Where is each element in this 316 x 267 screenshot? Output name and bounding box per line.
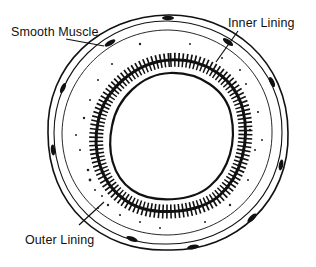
smooth-muscle-label: Smooth Muscle <box>11 25 98 39</box>
outer-lining-label: Outer Lining <box>25 233 94 247</box>
vessel-cross-section-diagram <box>0 0 316 267</box>
inner-lining-cell-ring <box>96 60 245 212</box>
inner-lining-label: Inner Lining <box>228 16 295 30</box>
inner-lining-leader <box>216 31 238 62</box>
lumen-boundary <box>110 73 233 199</box>
